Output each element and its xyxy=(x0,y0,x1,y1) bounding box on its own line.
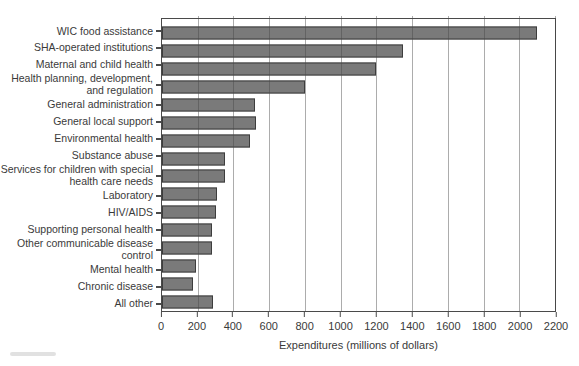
bar-row xyxy=(162,42,555,60)
x-tick-mark xyxy=(484,312,485,317)
caption-fragment xyxy=(10,352,56,356)
category-label: Health planning, development, and regula… xyxy=(11,73,153,97)
category-label: Laboratory xyxy=(103,190,153,202)
x-axis-title: Expenditures (millions of dollars) xyxy=(161,339,556,351)
bar xyxy=(162,44,403,57)
category-label-row: Mental health xyxy=(0,262,161,279)
bar xyxy=(162,98,255,111)
x-tick: 1000 xyxy=(328,312,352,332)
category-label: General administration xyxy=(47,99,153,111)
x-tick-label: 1400 xyxy=(400,320,424,332)
x-tick-mark xyxy=(304,312,305,317)
bar xyxy=(162,26,537,39)
x-tick: 2200 xyxy=(544,312,568,332)
x-tick: 2000 xyxy=(508,312,532,332)
bar xyxy=(162,152,225,165)
x-tick: 600 xyxy=(260,312,278,332)
x-tick-label: 1600 xyxy=(436,320,460,332)
gridline xyxy=(555,16,556,311)
bar xyxy=(162,170,225,183)
category-label: HIV/AIDS xyxy=(108,207,153,219)
category-label: Maternal and child health xyxy=(36,59,153,71)
category-label: WIC food assistance xyxy=(57,26,153,38)
category-label-row: Services for children with special healt… xyxy=(0,164,161,188)
category-label-row: SHA-operated institutions xyxy=(0,40,161,57)
x-tick-label: 2200 xyxy=(544,320,568,332)
category-label: General local support xyxy=(53,116,153,128)
x-tick-mark xyxy=(268,312,269,317)
category-label-row: General administration xyxy=(0,97,161,114)
x-tick: 1200 xyxy=(364,312,388,332)
bar-row xyxy=(162,185,555,203)
category-label-row: HIV/AIDS xyxy=(0,205,161,222)
bar-row xyxy=(162,221,555,239)
bar xyxy=(162,116,256,129)
bar-row xyxy=(162,293,555,311)
bar-row xyxy=(162,60,555,78)
x-tick-label: 1800 xyxy=(472,320,496,332)
category-label-row: Laboratory xyxy=(0,188,161,205)
bar-row xyxy=(162,114,555,132)
x-tick: 800 xyxy=(295,312,313,332)
x-tick-label: 600 xyxy=(260,320,278,332)
bar xyxy=(162,62,376,75)
x-tick-label: 2000 xyxy=(508,320,532,332)
x-tick-mark xyxy=(376,312,377,317)
bar-row xyxy=(162,275,555,293)
category-label: All other xyxy=(114,298,153,310)
x-tick: 200 xyxy=(188,312,206,332)
bar-chart: WIC food assistanceSHA-operated institut… xyxy=(0,0,579,366)
x-axis-ticks: 0200400600800100012001400160018002000220… xyxy=(161,312,556,342)
bar xyxy=(162,242,212,255)
category-label-row: Health planning, development, and regula… xyxy=(0,73,161,97)
x-tick: 1400 xyxy=(400,312,424,332)
bar xyxy=(162,134,250,147)
category-label-row: All other xyxy=(0,295,161,312)
category-label-row: Maternal and child health xyxy=(0,57,161,74)
bar xyxy=(162,80,305,93)
category-label-row: Environmental health xyxy=(0,131,161,148)
bar xyxy=(162,188,217,201)
bar-row xyxy=(162,168,555,186)
bar-row xyxy=(162,257,555,275)
x-tick-mark xyxy=(520,312,521,317)
x-tick: 400 xyxy=(224,312,242,332)
bar-row xyxy=(162,24,555,42)
x-tick-mark xyxy=(232,312,233,317)
x-tick: 0 xyxy=(158,312,164,332)
x-tick-label: 0 xyxy=(158,320,164,332)
x-tick-mark xyxy=(448,312,449,317)
category-label-row: Supporting personal health xyxy=(0,221,161,238)
bar-row xyxy=(162,78,555,96)
x-tick: 1600 xyxy=(436,312,460,332)
bar-row xyxy=(162,150,555,168)
bar-row xyxy=(162,203,555,221)
category-label-row: Other communicable disease control xyxy=(0,238,161,262)
category-label-row: General local support xyxy=(0,114,161,131)
category-label-row: WIC food assistance xyxy=(0,23,161,40)
category-label: Supporting personal health xyxy=(27,224,153,236)
category-label: Chronic disease xyxy=(78,281,153,293)
plot-area xyxy=(161,18,556,312)
category-label: Mental health xyxy=(90,264,153,276)
category-label: Other communicable disease control xyxy=(17,238,153,262)
x-tick-mark xyxy=(555,312,556,317)
x-tick-mark xyxy=(340,312,341,317)
bar-row xyxy=(162,239,555,257)
x-tick-label: 400 xyxy=(224,320,242,332)
category-label: SHA-operated institutions xyxy=(34,42,153,54)
x-tick: 1800 xyxy=(472,312,496,332)
category-label-row: Substance abuse xyxy=(0,147,161,164)
bar xyxy=(162,224,212,237)
bar-row xyxy=(162,96,555,114)
category-label: Substance abuse xyxy=(72,150,153,162)
x-tick-mark xyxy=(161,312,162,317)
bar xyxy=(162,278,193,291)
x-tick-label: 1000 xyxy=(328,320,352,332)
bar xyxy=(162,206,216,219)
bar xyxy=(162,296,213,309)
category-labels: WIC food assistanceSHA-operated institut… xyxy=(0,18,161,312)
category-label-row: Chronic disease xyxy=(0,278,161,295)
x-tick-label: 1200 xyxy=(364,320,388,332)
x-tick-label: 800 xyxy=(295,320,313,332)
